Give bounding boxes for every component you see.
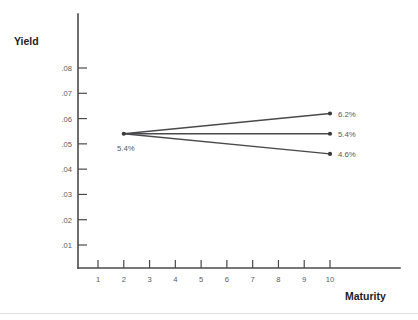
y-tick-label: .02	[61, 216, 72, 225]
x-tick-label: 7	[251, 275, 255, 284]
y-tick-label: .06	[61, 115, 72, 124]
x-tick-label: 2	[122, 275, 126, 284]
y-axis-title: Yield	[14, 35, 39, 47]
series-end-label-flat: 5.4%	[338, 130, 356, 139]
yield-curve-chart: Yield Maturity .01.02.03.04.05.06.07.08 …	[0, 0, 418, 320]
footer-rule	[0, 313, 418, 314]
y-tick-label: .03	[61, 190, 72, 199]
chart-background	[0, 0, 418, 320]
x-tick-label: 5	[199, 275, 203, 284]
series-end-label-rising: 6.2%	[338, 110, 356, 119]
x-tick-label: 10	[326, 275, 334, 284]
x-tick-label: 4	[173, 275, 177, 284]
x-tick-label: 6	[225, 275, 229, 284]
y-tick-label: .08	[61, 64, 72, 73]
series-endpoint-rising	[328, 111, 332, 115]
origin-point-dot	[122, 132, 126, 136]
x-axis-title: Maturity	[345, 290, 386, 302]
series-endpoint-flat	[328, 132, 332, 136]
y-tick-label: .05	[61, 140, 72, 149]
series-endpoint-falling	[328, 152, 332, 156]
x-tick-label: 1	[96, 275, 100, 284]
origin-point-label: 5.4%	[117, 144, 135, 153]
x-tick-label: 9	[302, 275, 306, 284]
y-tick-label: .04	[61, 165, 72, 174]
x-tick-label: 3	[147, 275, 151, 284]
y-tick-label: .07	[61, 89, 72, 98]
y-tick-label: .01	[61, 241, 72, 250]
x-tick-label: 8	[276, 275, 280, 284]
series-end-label-falling: 4.6%	[338, 150, 356, 159]
